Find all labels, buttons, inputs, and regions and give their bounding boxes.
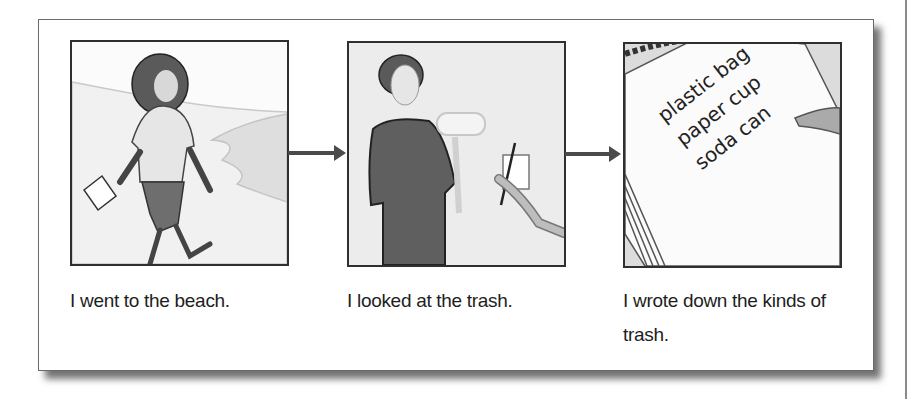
arrow-right-icon	[288, 151, 336, 155]
step-caption: I looked at the trash.	[347, 284, 513, 318]
man-holding-bottle-icon	[349, 43, 564, 265]
panel-beach-illustration	[70, 40, 289, 266]
panel-trash-illustration	[347, 41, 566, 267]
woman-walking-icon	[72, 42, 287, 264]
page-edge-rule	[905, 0, 907, 399]
step-caption: I went to the beach.	[70, 284, 230, 318]
arrow-right-icon	[565, 152, 611, 156]
panel-notebook-illustration: plastic bag paper cup soda can	[623, 42, 842, 268]
step-caption: I wrote down the kinds of trash.	[623, 284, 863, 352]
sequence-card: plastic bag paper cup soda can I went to…	[38, 19, 874, 371]
